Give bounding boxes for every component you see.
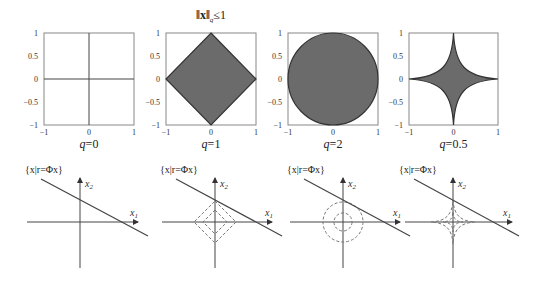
svg-text:−1: −1	[29, 121, 38, 130]
svg-text:0.5: 0.5	[393, 52, 403, 61]
svg-text:−1: −1	[273, 121, 282, 130]
svg-text:0: 0	[331, 128, 335, 137]
q-label: q=0.5	[440, 137, 468, 151]
plot-q2: 1 0.5 0 −0.5 −1 −1 0 1 q=2	[267, 29, 380, 151]
svg-text:−1: −1	[151, 121, 160, 130]
constraint-set-label: {x|r=Φx}	[287, 164, 325, 175]
svg-text:0.5: 0.5	[150, 52, 160, 61]
plot-q1: 1 0.5 0 −0.5 −1 −1 0 1 q=1	[145, 29, 258, 151]
constraint-plot-4: {x|r=Φx} x2 x1	[399, 164, 519, 268]
svg-text:0: 0	[87, 128, 91, 137]
constraint-set-label: {x|r=Φx}	[399, 164, 437, 175]
x2-label: x2	[84, 178, 93, 191]
svg-text:0: 0	[209, 128, 213, 137]
svg-text:0.5: 0.5	[28, 52, 38, 61]
svg-text:1: 1	[376, 128, 380, 137]
svg-text:1: 1	[399, 29, 403, 38]
svg-text:−1: −1	[394, 121, 403, 130]
plot-q0: 1 0.5 0 −0.5 −1 −1 0 1 q=0	[23, 29, 136, 151]
constraint-plot-2: {x|r=Φx} x2 x1	[160, 164, 282, 268]
svg-text:−1: −1	[40, 128, 49, 137]
svg-text:1: 1	[34, 29, 38, 38]
svg-text:0: 0	[278, 75, 282, 84]
svg-text:−0.5: −0.5	[388, 98, 403, 107]
svg-text:0: 0	[399, 75, 403, 84]
svg-text:1: 1	[156, 29, 160, 38]
constraint-plot-1: {x|r=Φx} x2 x1	[25, 164, 148, 268]
svg-text:−0.5: −0.5	[267, 98, 282, 107]
x2-label: x2	[219, 178, 228, 191]
x1-label: x1	[129, 207, 138, 220]
norm-ball-title: ‖x‖q≤1	[196, 8, 226, 24]
svg-text:0: 0	[34, 75, 38, 84]
svg-text:1: 1	[132, 128, 136, 137]
q-label: q=1	[202, 137, 221, 151]
svg-text:0: 0	[452, 128, 456, 137]
x2-label: x2	[347, 178, 356, 191]
x1-label: x1	[264, 207, 273, 220]
q-label: q=0	[80, 137, 99, 151]
svg-text:−1: −1	[405, 128, 414, 137]
x2-label: x2	[457, 178, 466, 191]
svg-text:1: 1	[278, 29, 282, 38]
plot-q05: 1 0.5 0 −0.5 −1 −1 0 1 q=0.5	[388, 29, 500, 151]
svg-text:−1: −1	[284, 128, 293, 137]
x1-label: x1	[392, 207, 401, 220]
svg-text:0.5: 0.5	[272, 52, 282, 61]
constraint-set-label: {x|r=Φx}	[25, 164, 63, 175]
svg-text:0: 0	[156, 75, 160, 84]
svg-text:1: 1	[496, 128, 500, 137]
q-label: q=2	[324, 137, 343, 151]
svg-text:−0.5: −0.5	[145, 98, 160, 107]
svg-text:−0.5: −0.5	[23, 98, 38, 107]
constraint-set-label: {x|r=Φx}	[160, 164, 198, 175]
constraint-plot-3: {x|r=Φx} x2 x1	[287, 164, 410, 268]
lq-norm-diagram: ‖x‖q≤1 1 0.5 0 −0.5 −1 −1 0 1 q=0 1 0.5 …	[0, 0, 537, 286]
svg-text:−1: −1	[162, 128, 171, 137]
svg-text:1: 1	[254, 128, 258, 137]
x1-label: x1	[502, 207, 511, 220]
